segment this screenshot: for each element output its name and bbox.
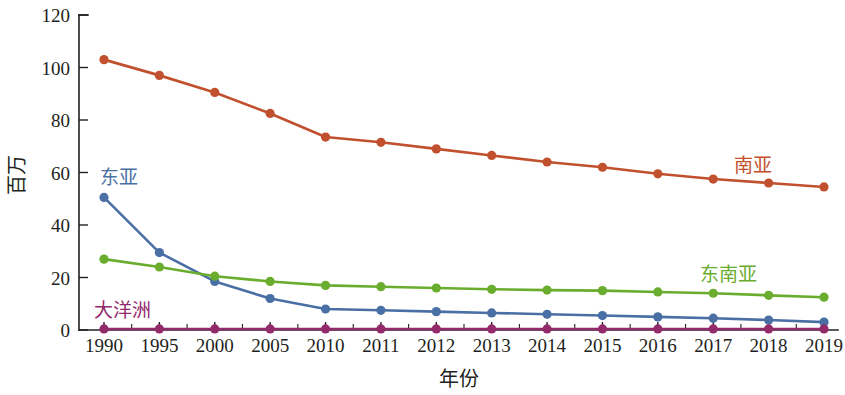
series-data-point bbox=[542, 324, 551, 333]
x-tick-label: 2011 bbox=[362, 335, 399, 356]
y-axis-title: 百万 bbox=[6, 155, 28, 195]
x-tick-label: 1995 bbox=[140, 335, 178, 356]
series-data-point bbox=[266, 277, 275, 286]
series-data-point bbox=[155, 248, 164, 257]
series-data-point bbox=[709, 289, 718, 298]
series-data-point bbox=[432, 324, 441, 333]
x-tick-label: 2010 bbox=[307, 335, 345, 356]
x-tick-label: 2016 bbox=[639, 335, 677, 356]
series-data-point bbox=[764, 315, 773, 324]
y-tick-label: 100 bbox=[42, 58, 71, 79]
chart-series bbox=[99, 55, 828, 192]
series-data-point bbox=[155, 324, 164, 333]
x-axis-tick-labels: 1990199520002005201020112012201320142015… bbox=[85, 335, 843, 356]
chart-series-layer bbox=[99, 55, 828, 334]
series-data-point bbox=[210, 272, 219, 281]
x-tick-label: 2012 bbox=[417, 335, 455, 356]
series-data-point bbox=[653, 169, 662, 178]
series-data-point bbox=[487, 285, 496, 294]
series-data-point bbox=[653, 324, 662, 333]
series-data-point bbox=[653, 312, 662, 321]
series-data-point bbox=[487, 324, 496, 333]
series-data-point bbox=[321, 304, 330, 313]
series-data-point bbox=[99, 55, 108, 64]
series-data-point bbox=[598, 311, 607, 320]
x-tick-label: 2017 bbox=[694, 335, 732, 356]
x-tick-label: 1990 bbox=[85, 335, 123, 356]
series-label-南亚: 南亚 bbox=[734, 155, 772, 176]
chart-series-annotations: 东亚大洋洲南亚东南亚 bbox=[94, 155, 772, 321]
series-data-point bbox=[210, 88, 219, 97]
series-data-point bbox=[376, 282, 385, 291]
x-tick-label: 2015 bbox=[583, 335, 621, 356]
series-line bbox=[104, 60, 824, 187]
series-data-point bbox=[598, 286, 607, 295]
y-tick-label: 40 bbox=[51, 215, 70, 236]
series-data-point bbox=[764, 178, 773, 187]
series-data-point bbox=[155, 262, 164, 271]
series-data-point bbox=[321, 281, 330, 290]
series-data-point bbox=[598, 163, 607, 172]
series-data-point bbox=[542, 286, 551, 295]
series-data-point bbox=[819, 293, 828, 302]
x-tick-label: 2019 bbox=[805, 335, 843, 356]
series-data-point bbox=[819, 182, 828, 191]
line-chart-figure: 120100806040200 199019952000200520102011… bbox=[0, 0, 845, 395]
series-data-point bbox=[321, 324, 330, 333]
series-data-point bbox=[709, 324, 718, 333]
series-data-point bbox=[210, 324, 219, 333]
y-tick-label: 120 bbox=[42, 5, 71, 26]
series-line bbox=[104, 197, 824, 322]
series-data-point bbox=[542, 310, 551, 319]
series-data-point bbox=[764, 291, 773, 300]
x-tick-label: 2013 bbox=[473, 335, 511, 356]
series-data-point bbox=[266, 324, 275, 333]
series-data-point bbox=[376, 324, 385, 333]
y-axis-tick-marks bbox=[79, 15, 88, 330]
series-label-大洋洲: 大洋洲 bbox=[94, 300, 151, 321]
y-tick-label: 20 bbox=[51, 268, 70, 289]
series-data-point bbox=[432, 283, 441, 292]
series-data-point bbox=[266, 294, 275, 303]
series-data-point bbox=[542, 157, 551, 166]
series-data-point bbox=[487, 151, 496, 160]
series-data-point bbox=[99, 255, 108, 264]
series-data-point bbox=[155, 71, 164, 80]
series-data-point bbox=[376, 306, 385, 315]
series-data-point bbox=[432, 144, 441, 153]
chart-series bbox=[99, 193, 828, 327]
x-tick-label: 2014 bbox=[528, 335, 567, 356]
series-label-东南亚: 东南亚 bbox=[700, 264, 757, 285]
y-tick-label: 80 bbox=[51, 110, 70, 131]
series-data-point bbox=[709, 314, 718, 323]
series-data-point bbox=[764, 324, 773, 333]
series-data-point bbox=[321, 132, 330, 141]
x-tick-label: 2018 bbox=[750, 335, 788, 356]
series-data-point bbox=[266, 109, 275, 118]
chart-canvas: 120100806040200 199019952000200520102011… bbox=[0, 0, 845, 395]
series-data-point bbox=[99, 324, 108, 333]
series-data-point bbox=[598, 324, 607, 333]
series-data-point bbox=[653, 287, 662, 296]
x-tick-label: 2000 bbox=[196, 335, 234, 356]
x-axis-title: 年份 bbox=[439, 368, 479, 390]
series-data-point bbox=[99, 193, 108, 202]
series-data-point bbox=[709, 174, 718, 183]
series-data-point bbox=[376, 138, 385, 147]
y-axis-tick-labels: 120100806040200 bbox=[42, 5, 71, 341]
x-tick-label: 2005 bbox=[251, 335, 289, 356]
y-tick-label: 60 bbox=[51, 163, 70, 184]
series-data-point bbox=[432, 307, 441, 316]
series-data-point bbox=[487, 308, 496, 317]
series-data-point bbox=[819, 324, 828, 333]
y-tick-label: 0 bbox=[61, 320, 71, 341]
series-label-东亚: 东亚 bbox=[100, 167, 138, 188]
